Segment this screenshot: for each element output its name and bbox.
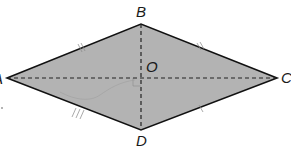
rhombus-diagram: A B C D O xyxy=(0,0,291,148)
vertex-label-c: C xyxy=(281,69,291,86)
vertex-label-a: A xyxy=(0,70,3,87)
center-label-o: O xyxy=(146,58,158,75)
rhombus-abcd xyxy=(7,24,277,130)
vertex-label-d: D xyxy=(136,132,147,148)
stray-dot xyxy=(1,107,3,109)
vertex-label-b: B xyxy=(136,3,146,20)
rhombus-figure: A B C D O xyxy=(0,0,291,148)
